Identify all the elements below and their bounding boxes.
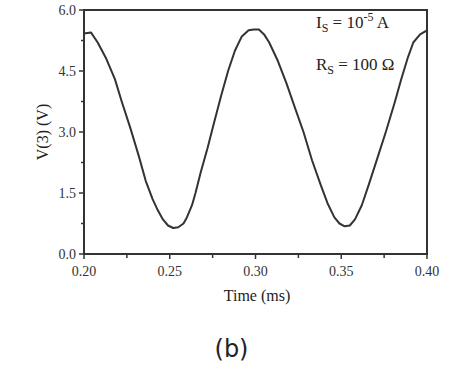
y-tick-label: 0.0 xyxy=(59,247,77,262)
annotation-is: IS = 10-5 A xyxy=(316,10,390,35)
x-tick-label: 0.20 xyxy=(72,264,97,279)
y-axis-ticks: 0.01.53.04.56.0 xyxy=(59,3,85,262)
y-tick-label: 3.0 xyxy=(59,125,77,140)
figure-caption: (b) xyxy=(0,335,463,363)
y-tick-label: 1.5 xyxy=(59,186,77,201)
voltage-time-chart: 0.01.53.04.56.0 0.200.250.300.350.40 V(3… xyxy=(0,0,463,330)
parameter-annotations: IS = 10-5 ARS = 100 Ω xyxy=(316,10,395,77)
x-tick-label: 0.40 xyxy=(415,264,440,279)
x-axis-ticks: 0.200.250.300.350.40 xyxy=(72,254,440,279)
x-tick-label: 0.30 xyxy=(243,264,268,279)
x-tick-label: 0.25 xyxy=(158,264,183,279)
annotation-rs: RS = 100 Ω xyxy=(316,55,395,77)
x-axis-title: Time (ms) xyxy=(224,287,291,305)
plot-frame xyxy=(84,10,427,254)
y-tick-label: 4.5 xyxy=(59,64,77,79)
x-tick-label: 0.35 xyxy=(329,264,354,279)
y-axis-title: V(3) (V) xyxy=(34,104,52,160)
y-tick-label: 6.0 xyxy=(59,3,77,18)
